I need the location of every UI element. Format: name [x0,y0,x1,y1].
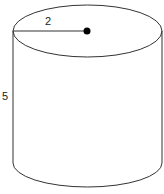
cylinder-diagram: 2 5 [0,0,164,194]
radius-label: 2 [45,16,51,27]
center-dot [84,28,91,35]
height-label: 5 [2,91,8,102]
cylinder-figure [0,0,164,194]
cylinder-bottom-arc [13,163,162,187]
